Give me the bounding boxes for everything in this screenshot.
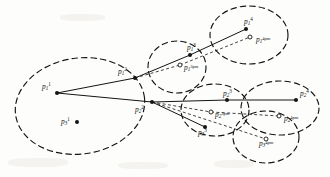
node-label-p3_3: p33	[198, 128, 207, 137]
node-marker-p1_1	[55, 91, 59, 95]
node-label-p2_4pm: p24pm	[284, 115, 298, 123]
node-marker-p1_3	[188, 53, 192, 57]
node-marker-p2_3pm	[209, 110, 213, 114]
node-label-p2_4: p24	[300, 89, 309, 98]
label-superscript: 1	[67, 116, 70, 122]
edge-p2_2-p2_3	[152, 100, 227, 102]
label-superscript: 2	[141, 104, 144, 110]
label-superscript: 4pm	[262, 36, 270, 41]
node-label-p2_3: p23	[223, 89, 232, 98]
node-label-p1_3: p13	[187, 43, 196, 52]
edge-p1_1-p2_2	[57, 93, 152, 102]
label-superscript: 1	[48, 81, 51, 87]
node-marker-p1_4	[244, 27, 248, 31]
node-label-p3_1: p31	[61, 117, 70, 126]
label-superscript: 4	[250, 16, 253, 22]
label-superscript: 3pm	[221, 111, 229, 116]
node-label-p1_4: p14	[244, 17, 253, 26]
label-superscript: 3	[204, 127, 207, 133]
edge-p2_2-p3_3	[152, 102, 205, 127]
label-superscript: 4pm	[265, 140, 273, 145]
node-marker-p2_4	[294, 98, 298, 102]
node-label-p3_4pm: p34pm	[259, 140, 273, 148]
node-marker-p2_2	[150, 100, 154, 104]
ellipse-p1-1	[9, 49, 151, 162]
label-superscript: 3	[229, 88, 232, 94]
predicted-path-layer	[135, 37, 279, 139]
figure-canvas: p11p31p12p22p13p13pmp14p14pmp23p23pmp33p…	[0, 0, 330, 177]
label-superscript: 3pm	[190, 64, 198, 69]
pred-p1_2-p1_3pm	[135, 65, 180, 78]
node-label-p1_2: p12	[118, 67, 127, 76]
node-marker-p1_4pm	[248, 35, 252, 39]
node-label-p1_4pm: p14pm	[256, 36, 270, 44]
label-superscript: 2	[124, 66, 127, 72]
node-label-p1_1: p11	[42, 82, 51, 91]
node-marker-p2_3	[225, 98, 229, 102]
label-superscript: 3	[193, 42, 196, 48]
node-label-p1_3pm: p13pm	[184, 64, 198, 72]
node-marker-p1_3pm	[178, 63, 182, 67]
edge-p1_1-p1_2	[57, 78, 135, 93]
label-superscript: 4pm	[290, 115, 298, 120]
node-marker-p1_2	[133, 76, 137, 80]
label-superscript: 4	[306, 88, 309, 94]
node-marker-p3_1	[75, 120, 79, 124]
pred-p2_2-p2_3pm	[152, 102, 211, 112]
node-label-p2_2: p22	[135, 105, 144, 114]
node-marker-p2_4pm	[277, 114, 281, 118]
node-label-p2_3pm: p23pm	[215, 111, 229, 119]
